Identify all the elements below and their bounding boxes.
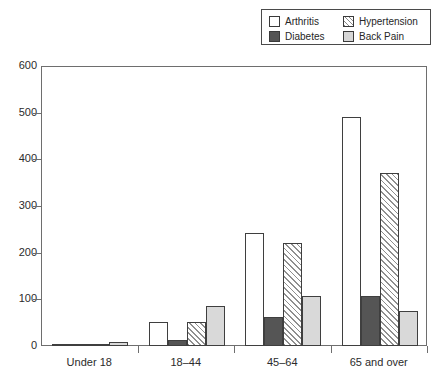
bar-arthritis-3 (342, 117, 361, 346)
y-axis-tick-label: 100 (3, 293, 37, 304)
y-axis-tick-label: 400 (3, 153, 37, 164)
legend-item-diabetes: Diabetes (269, 31, 343, 42)
x-axis-tick (234, 346, 235, 353)
bar-back-pain-2 (302, 296, 321, 346)
bar-hypertension-1 (187, 322, 206, 346)
bar-diabetes-0 (71, 344, 90, 346)
bar-back-pain-1 (206, 306, 225, 346)
x-axis-category-label: 18–44 (138, 356, 235, 368)
bar-arthritis-2 (245, 233, 264, 346)
y-axis-tick (33, 206, 41, 207)
bar-hypertension-2 (283, 243, 302, 346)
y-axis-tick-label: 300 (3, 200, 37, 211)
legend-item-backpain: Back Pain (343, 31, 404, 42)
y-axis-tick-label: 200 (3, 247, 37, 258)
legend-row: Diabetes Back Pain (269, 29, 424, 43)
chart-legend: Arthritis Hypertension Diabetes Back Pai… (261, 9, 431, 45)
y-axis-tick (33, 253, 41, 254)
legend-label-diabetes: Diabetes (285, 31, 324, 42)
y-axis-tick (33, 159, 41, 160)
x-axis-category-label: 65 and over (331, 356, 428, 368)
bar-diabetes-1 (168, 340, 187, 346)
legend-item-arthritis: Arthritis (269, 16, 343, 27)
bar-arthritis-0 (52, 344, 71, 346)
y-axis-tick-label: 600 (3, 60, 37, 71)
bar-back-pain-0 (109, 342, 128, 346)
swatch-dark-square-icon (269, 31, 280, 42)
x-axis-tick (138, 346, 139, 353)
y-axis-tick (33, 299, 41, 300)
swatch-hatched-square-icon (343, 16, 354, 27)
bar-diabetes-2 (264, 317, 283, 346)
bar-hypertension-0 (90, 344, 109, 346)
legend-label-hypertension: Hypertension (359, 16, 418, 27)
bar-hypertension-3 (380, 173, 399, 346)
x-axis-category-label: Under 18 (41, 356, 138, 368)
bar-series-container (42, 67, 426, 346)
legend-label-arthritis: Arthritis (285, 16, 319, 27)
bar-arthritis-1 (149, 322, 168, 346)
bar-diabetes-3 (361, 296, 380, 346)
y-axis-tick (33, 113, 41, 114)
bar-back-pain-3 (399, 311, 418, 346)
legend-label-backpain: Back Pain (359, 31, 404, 42)
x-axis-category-label: 45–64 (234, 356, 331, 368)
legend-row: Arthritis Hypertension (269, 14, 424, 28)
y-axis-tick-label: 0 (3, 340, 37, 351)
swatch-grey-square-icon (343, 31, 354, 42)
x-axis-tick (427, 346, 428, 353)
legend-item-hypertension: Hypertension (343, 16, 418, 27)
swatch-white-square-icon (269, 16, 280, 27)
y-axis-labels: 6005004003002001000 (0, 0, 37, 381)
x-axis-tick (331, 346, 332, 353)
y-axis-tick-label: 500 (3, 107, 37, 118)
